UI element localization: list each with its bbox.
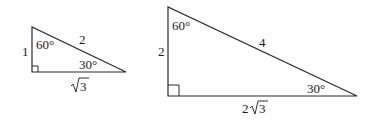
large-base-coefficient: 2: [242, 101, 249, 116]
small-angle-60-label: 60°: [36, 37, 54, 52]
triangles-diagram: 60° 2 1 30° 3 60° 4 2 30° 2 3: [0, 0, 384, 120]
large-triangle-outline: [168, 7, 357, 96]
small-triangle: 60° 2 1 30° 3: [22, 27, 126, 94]
large-angle-30-label: 30°: [307, 81, 325, 96]
small-side-left-label: 1: [22, 44, 29, 59]
large-base-radicand: 3: [259, 101, 266, 116]
small-hypotenuse-label: 2: [79, 32, 86, 47]
small-right-angle-marker: [32, 66, 38, 72]
large-hypotenuse-label: 4: [259, 35, 266, 50]
small-angle-30-label: 30°: [79, 57, 97, 72]
large-right-angle-marker: [168, 85, 179, 96]
small-base-radicand: 3: [80, 79, 87, 94]
large-side-left-label: 2: [158, 44, 165, 59]
large-base-label: 2 3: [242, 101, 268, 116]
large-angle-60-label: 60°: [172, 18, 190, 33]
small-base-label: 3: [71, 78, 89, 94]
large-triangle: 60° 4 2 30° 2 3: [158, 7, 357, 116]
